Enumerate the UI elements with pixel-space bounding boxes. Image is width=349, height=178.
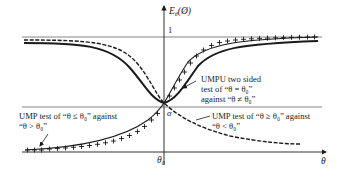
ump-le-plus-curve [25, 37, 318, 150]
one-tick-label: 1 [168, 25, 172, 35]
umpu-annotation: UMPU two sided test of “θ = θ₀” against … [201, 74, 261, 104]
umpu-line-2: test of “θ = θ₀” [201, 84, 261, 94]
y-axis-label: Eθ(Ø) [169, 6, 191, 19]
ump-ge-line-2: “θ < θ₀” [212, 121, 310, 131]
ump-le-leader [40, 134, 48, 146]
power-function-diagram [0, 0, 349, 178]
x-axis-label: θ [321, 156, 326, 166]
ump-le-line-1: UMP test of “θ ≤ θ₀” against [19, 111, 117, 121]
umpu-line-1: UMPU two sided [201, 74, 261, 84]
ump-ge-annotation: UMP test of “θ ≥ θ₀” against “θ < θ₀” [212, 111, 310, 131]
umpu-curve [24, 41, 318, 103]
ump-le-line-2: “θ > θ₀” [19, 121, 117, 131]
alpha-tick-label: α [167, 108, 172, 118]
ump-le-annotation: UMP test of “θ ≤ θ₀” against “θ > θ₀” [19, 111, 117, 131]
ump-ge-leader [196, 116, 210, 120]
theta0-tick-label: θ0 [157, 155, 165, 168]
ump-ge-line-1: UMP test of “θ ≥ θ₀” against [212, 111, 310, 121]
plus-markers [25, 35, 317, 153]
umpu-line-3: against “θ ≠ θ₀” [201, 94, 261, 104]
